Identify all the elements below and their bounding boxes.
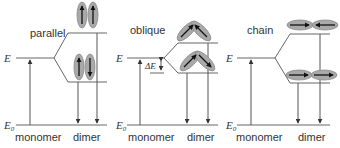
panel-title: chain <box>247 24 273 36</box>
dimer-label: dimer <box>73 131 101 143</box>
lower-dipole-pair <box>177 48 217 73</box>
energy-label: E <box>225 52 233 64</box>
lower-dipole-pair <box>74 54 95 80</box>
panel-title: oblique <box>130 24 165 36</box>
monomer-label: monomer <box>15 131 62 143</box>
dimer-upper-level <box>275 34 330 58</box>
ground-energy-label: E0 <box>225 119 237 133</box>
exciton-diagram: parallel E E0 monomer dimer oblique E E0 <box>0 0 340 148</box>
ground-energy-label: E0 <box>3 119 15 133</box>
panel-title: parallel <box>30 27 65 39</box>
lower-dipole-pair <box>286 70 337 80</box>
monomer-label: monomer <box>236 131 283 143</box>
panel-chain: chain E E0 monomer dimer <box>225 20 338 143</box>
dimer-label: dimer <box>298 131 326 143</box>
energy-label: E <box>115 52 123 64</box>
panel-oblique: oblique E E0 ΔE monomer dimer <box>115 18 218 143</box>
dimer-label: dimer <box>187 131 215 143</box>
upper-dipole-pair <box>77 2 98 28</box>
monomer-label: monomer <box>128 131 175 143</box>
energy-label: E <box>3 52 11 64</box>
delta-e-label: ΔE <box>144 61 156 71</box>
panel-parallel: parallel E E0 monomer dimer <box>3 2 107 143</box>
upper-dipole-pair <box>287 20 338 30</box>
ground-energy-label: E0 <box>115 119 127 133</box>
upper-dipole-pair <box>174 18 213 43</box>
